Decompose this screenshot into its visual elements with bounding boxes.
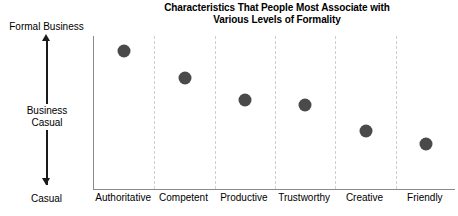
y-axis-label-formal-business: Formal Business — [0, 21, 93, 33]
gridline — [396, 36, 397, 189]
gridline — [215, 36, 216, 189]
y-axis-label-business-casual-word-2: Casual — [14, 117, 80, 129]
x-axis-label-competent: Competent — [159, 192, 208, 204]
y-axis-formality-scale: Formal Business Business Casual Business… — [0, 0, 93, 216]
gridline — [335, 36, 336, 189]
x-axis-label-creative: Creative — [346, 192, 383, 204]
y-axis-label-business-casual: Business Casual Business Casual — [14, 104, 80, 130]
x-axis-label-productive: Productive — [220, 192, 267, 204]
arrow-down-icon — [42, 178, 50, 185]
gridline — [275, 36, 276, 189]
x-axis-category-labels: AuthoritativeCompetentProductiveTrustwor… — [93, 192, 458, 214]
plot-area — [93, 36, 455, 190]
data-point — [299, 99, 312, 112]
x-axis-label-friendly: Friendly — [407, 192, 443, 204]
chart-title: Characteristics That People Most Associa… — [96, 2, 458, 26]
data-point — [419, 137, 432, 150]
data-point — [118, 45, 131, 58]
y-axis-label-business-casual-word-1: Business — [14, 105, 80, 117]
data-point — [178, 71, 191, 84]
data-point — [359, 125, 372, 138]
chart-title-line-1: Characteristics That People Most Associa… — [96, 2, 458, 14]
x-axis-label-authoritative: Authoritative — [95, 192, 151, 204]
gridline — [154, 36, 155, 189]
y-axis-label-casual: Casual — [0, 193, 93, 205]
formality-scatter-chart: Characteristics That People Most Associa… — [0, 0, 458, 216]
chart-title-line-2: Various Levels of Formality — [96, 14, 458, 26]
x-axis-label-trustworthy: Trustworthy — [278, 192, 330, 204]
data-point — [238, 93, 251, 106]
